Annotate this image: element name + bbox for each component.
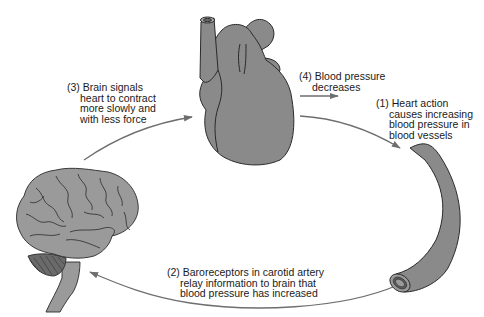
heart-icon	[200, 17, 294, 165]
brain-icon	[17, 168, 139, 312]
step-4-label: (4) Blood pressure decreases	[299, 71, 385, 92]
step-3-label: (3) Brain signals heart to contract more…	[67, 82, 156, 124]
step-2-label: (2) Baroreceptors in carotid artery rela…	[167, 267, 324, 299]
artery-icon	[386, 144, 460, 296]
step-1-label: (1) Heart action causes increasing blood…	[376, 98, 473, 140]
